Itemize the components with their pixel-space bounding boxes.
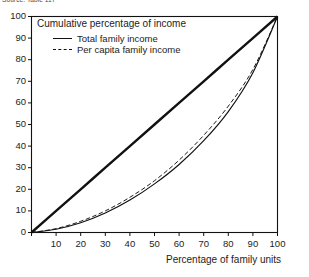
y-tick-label: 70 — [2, 75, 26, 86]
y-tick-label: 80 — [2, 53, 26, 64]
y-tick-label: 90 — [2, 32, 26, 43]
y-tick-label: 10 — [2, 204, 26, 215]
y-tick-label: 20 — [2, 183, 26, 194]
legend-item: Total family income — [53, 33, 180, 44]
chart-legend: Total family incomePer capita family inc… — [53, 33, 180, 55]
x-tick-label: 90 — [242, 238, 264, 249]
x-tick-label: 100 — [267, 238, 289, 249]
y-tick-label: 60 — [2, 96, 26, 107]
x-tick-label: 30 — [94, 238, 116, 249]
y-tick-label: 0 — [2, 226, 26, 237]
x-tick-label: 50 — [144, 238, 166, 249]
legend-item-label: Per capita family income — [77, 44, 180, 55]
x-tick-label: 60 — [168, 238, 190, 249]
solid-line-icon — [53, 34, 72, 43]
x-tick-label: 20 — [70, 238, 92, 249]
y-tick-label: 40 — [2, 140, 26, 151]
x-tick-label: 70 — [193, 238, 215, 249]
legend-item: Per capita family income — [53, 44, 180, 55]
y-axis-title: Cumulative percentage of income — [37, 18, 186, 29]
x-tick-label: 10 — [45, 238, 67, 249]
y-tick-label: 50 — [2, 118, 26, 129]
x-tick-label: 40 — [119, 238, 141, 249]
dashed-line-icon — [53, 45, 72, 54]
y-tick-label: 100 — [2, 10, 26, 21]
legend-item-label: Total family income — [77, 33, 158, 44]
x-tick-label: 80 — [217, 238, 239, 249]
y-tick-label: 30 — [2, 161, 26, 172]
x-axis-title-label: Percentage of family units — [166, 254, 281, 265]
lorenz-curve-figure: Source: Table 117 Cumulative percentage … — [0, 0, 309, 277]
